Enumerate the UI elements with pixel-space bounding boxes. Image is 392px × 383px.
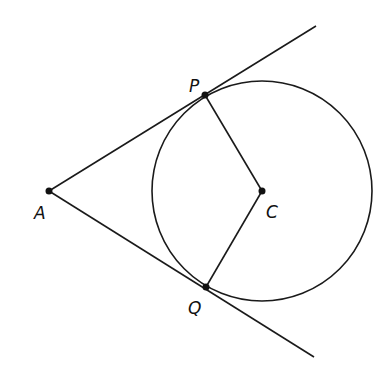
point-a: [46, 188, 53, 195]
label-q: Q: [188, 298, 201, 318]
radius-cp: [205, 95, 262, 191]
radius-cq: [206, 191, 262, 287]
point-c: [259, 188, 266, 195]
label-p: P: [189, 76, 200, 96]
label-c: C: [266, 202, 278, 222]
point-p: [202, 92, 209, 99]
tangent-line-ap: [49, 26, 316, 191]
geometry-diagram: A P C Q: [0, 0, 392, 383]
label-a: A: [33, 203, 46, 223]
point-q: [203, 284, 210, 291]
